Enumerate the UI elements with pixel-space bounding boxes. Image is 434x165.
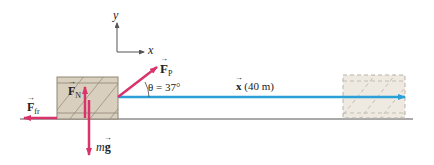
- angle-label: θ = 37°: [148, 82, 180, 93]
- box-final-position: [335, 75, 434, 125]
- normal-force-label: FN: [68, 85, 81, 100]
- displacement-label: x (40 m): [236, 81, 274, 92]
- pull-force-label: FP: [160, 62, 172, 78]
- friction-force-label: Ffr: [27, 101, 40, 116]
- y-axis-label: y: [113, 9, 118, 21]
- gravity-force-label: mg: [96, 141, 111, 153]
- free-body-diagram: [0, 0, 434, 165]
- axis-indicator: [117, 23, 144, 52]
- box: [45, 75, 145, 125]
- x-axis-label: x: [148, 44, 153, 56]
